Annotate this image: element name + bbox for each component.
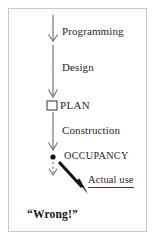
node-label-programming: Programming xyxy=(62,25,124,37)
node-label-design: Design xyxy=(62,61,94,73)
arrow-design xyxy=(49,45,58,97)
plan-square-marker xyxy=(47,101,57,110)
arrow-dashed-continuation xyxy=(49,162,57,175)
arrow-programming xyxy=(49,15,58,42)
figure-caption-wrong: “Wrong!” xyxy=(27,208,78,220)
arrow-construction xyxy=(49,112,58,150)
arrow-actual-use-divergence xyxy=(59,162,88,194)
node-label-construction: Construction xyxy=(62,124,120,136)
occupancy-dot-marker xyxy=(50,154,55,159)
node-label-occupancy: OCCUPANCY xyxy=(64,150,129,162)
node-label-actual-use: Actual use xyxy=(88,174,134,188)
diagram-figure: Programming Design PLAN Construction OCC… xyxy=(0,0,158,242)
node-label-plan: PLAN xyxy=(60,99,90,111)
